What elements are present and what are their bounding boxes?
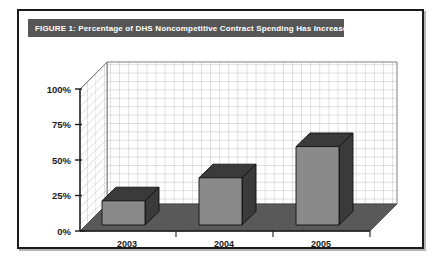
bar-2003[interactable] [102, 187, 159, 225]
x-tick-label-2005: 2005 [311, 239, 331, 247]
y-tick-label-50: 50% [52, 155, 72, 166]
y-tick-label-75: 75% [52, 119, 72, 130]
bar-2004[interactable] [199, 164, 256, 225]
y-tick-label-100: 100% [47, 84, 72, 95]
y-tick-label-25: 25% [52, 190, 72, 201]
figure-frame: FIGURE 1: Percentage of DHS Noncompetiti… [17, 9, 424, 249]
figure-title: FIGURE 1: Percentage of DHS Noncompetiti… [35, 24, 352, 33]
x-tick-label-2004: 2004 [214, 239, 234, 247]
x-tick-label-2003: 2003 [117, 239, 137, 247]
bar-chart-svg: 100% 75% 50% 25% 0% [19, 39, 422, 247]
chart-plot-area: 100% 75% 50% 25% 0% [19, 39, 422, 247]
x-axis [80, 231, 370, 237]
figure-title-bar: FIGURE 1: Percentage of DHS Noncompetiti… [28, 19, 344, 37]
bar-2005[interactable] [296, 133, 353, 225]
y-tick-label-0: 0% [57, 226, 71, 237]
